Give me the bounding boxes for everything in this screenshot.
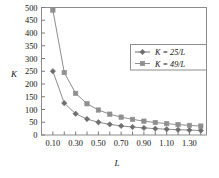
x-axis-title: L — [113, 158, 119, 168]
y-tick-label: 100 — [25, 106, 38, 115]
square-data-point — [119, 115, 123, 119]
square-data-point — [51, 8, 55, 12]
y-tick-label: 250 — [25, 67, 38, 76]
legend-label-2: K = 49/L — [154, 60, 186, 69]
y-tick-label: 150 — [25, 93, 38, 102]
x-tick-label: 0.10 — [46, 139, 61, 148]
y-tick-label: 0 — [33, 131, 37, 140]
chart-background — [0, 0, 219, 178]
x-tick-label: 1.30 — [182, 139, 197, 148]
square-data-point — [153, 120, 157, 124]
square-data-point — [199, 124, 203, 128]
y-tick-label: 450 — [25, 16, 38, 25]
square-data-point — [62, 70, 66, 74]
legend-label-1: K = 25/L — [154, 48, 186, 57]
chart-container: 050100150200250300350400450500 0.100.300… — [0, 0, 219, 178]
x-tick-label: 1.10 — [159, 139, 174, 148]
square-data-point — [187, 123, 191, 127]
y-tick-label: 400 — [25, 29, 38, 38]
y-tick-label: 300 — [25, 55, 38, 64]
x-tick-label: 0.30 — [68, 139, 83, 148]
y-tick-label: 50 — [29, 118, 37, 127]
y-tick-label: 350 — [25, 42, 38, 51]
square-data-point — [176, 122, 180, 126]
y-tick-label: 200 — [25, 80, 38, 89]
y-tick-label: 500 — [25, 4, 38, 13]
square-marker — [140, 61, 144, 65]
square-data-point — [73, 91, 77, 95]
y-axis-title: K — [10, 69, 18, 79]
x-tick-label: 0.90 — [137, 139, 152, 148]
square-data-point — [85, 102, 89, 106]
chart-legend: K = 25/LK = 49/L — [131, 45, 207, 71]
line-chart: 050100150200250300350400450500 0.100.300… — [0, 0, 219, 178]
square-data-point — [164, 121, 168, 125]
square-data-point — [142, 119, 146, 123]
square-data-point — [130, 117, 134, 121]
x-tick-label: 0.50 — [91, 139, 106, 148]
x-tick-label: 0.70 — [114, 139, 129, 148]
square-data-point — [96, 108, 100, 112]
square-data-point — [108, 112, 112, 116]
